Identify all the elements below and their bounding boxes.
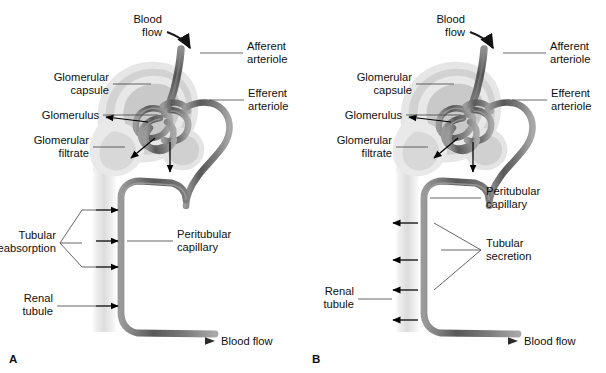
panel-letter-a: A bbox=[9, 353, 18, 365]
efferent-arteriole-label-line1: Efferent bbox=[248, 87, 288, 99]
peritubular-capillary-vessel bbox=[121, 181, 215, 334]
afferent-arteriole-label-line1: Afferent bbox=[550, 40, 590, 52]
panel-letter-b: B bbox=[312, 353, 321, 365]
renal-tubule-label-line1: Renal bbox=[325, 285, 354, 297]
glomerulus-label: Glomerulus bbox=[345, 109, 403, 121]
afferent-arteriole-label-line2: arteriole bbox=[247, 53, 287, 65]
glomerular-filtrate-label-line1: Glomerular bbox=[337, 134, 393, 146]
afferent-arteriole-label-line1: Afferent bbox=[247, 40, 287, 52]
peritubular-capillary-label-line2: capillary bbox=[177, 241, 218, 253]
tubular-secretion-label-line2: secretion bbox=[486, 250, 531, 262]
renal-tubule-label-line2: tubule bbox=[324, 298, 354, 310]
tubular-reabsorption-label-line2: reabsorption bbox=[0, 242, 56, 254]
renal-tubule-label-line1: Renal bbox=[24, 292, 53, 304]
blood-flow-top-arrow bbox=[167, 32, 190, 48]
blood-flow-top-label-line2: flow bbox=[142, 26, 163, 38]
blood-flow-top-label-line1: Blood bbox=[133, 13, 162, 25]
panel-b: Blood flow Afferent arteriole Efferent a… bbox=[303, 0, 606, 373]
glomerular-capsule-label-line1: Glomerular bbox=[54, 71, 110, 83]
peritubular-capillary-label-line2: capillary bbox=[486, 198, 527, 210]
efferent-arteriole-label-line1: Efferent bbox=[551, 87, 591, 99]
glomerular-filtrate-label-line1: Glomerular bbox=[34, 134, 90, 146]
peritubular-capillary-label-line1: Peritubular bbox=[177, 228, 231, 240]
afferent-arteriole-label-line2: arteriole bbox=[550, 53, 590, 65]
renal-tubule-label-line2: tubule bbox=[23, 305, 53, 317]
blood-flow-top-label-line2: flow bbox=[445, 26, 466, 38]
tubular-reabsorption-label-line1: Tubular bbox=[18, 229, 56, 241]
blood-flow-bottom-arrow bbox=[150, 337, 215, 345]
efferent-arteriole-label-line2: arteriole bbox=[551, 100, 591, 112]
glomerular-filtrate-label-line2: filtrate bbox=[362, 147, 392, 159]
blood-flow-bottom-label: Blood flow bbox=[524, 335, 577, 347]
efferent-arteriole-label-line2: arteriole bbox=[248, 100, 288, 112]
glomerular-capsule-label-line1: Glomerular bbox=[357, 71, 413, 83]
figure-root: Blood flow Afferent arteriole Efferent a… bbox=[0, 0, 606, 373]
blood-flow-bottom-arrow bbox=[453, 337, 518, 345]
tubular-secretion-label-line1: Tubular bbox=[486, 237, 524, 249]
blood-flow-top-label-line1: Blood bbox=[436, 13, 465, 25]
peritubular-capillary-label-line1: Peritubular bbox=[486, 185, 540, 197]
glomerular-capsule-label-line2: capsule bbox=[373, 84, 412, 96]
glomerulus-label: Glomerulus bbox=[42, 109, 100, 121]
blood-flow-bottom-label: Blood flow bbox=[221, 335, 274, 347]
blood-flow-top-arrow bbox=[470, 32, 493, 48]
glomerular-capsule-label-line2: capsule bbox=[70, 84, 109, 96]
panel-a: Blood flow Afferent arteriole Efferent a… bbox=[0, 0, 303, 373]
glomerular-filtrate-label-line2: filtrate bbox=[59, 147, 89, 159]
